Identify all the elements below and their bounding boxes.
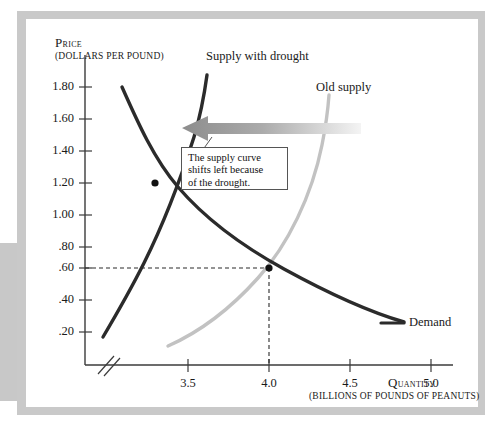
x-tick-label-4.5: 4.5 xyxy=(330,376,370,391)
chart-canvas xyxy=(26,19,478,407)
new-equilibrium-dot xyxy=(151,179,158,186)
supply-demand-chart: Price (DOLLARS PER POUND) Quantity (BILL… xyxy=(26,19,478,407)
shift-callout-text: The supply curve shifts left because of … xyxy=(188,152,282,189)
y-tick-label-1.40: 1.40 xyxy=(30,143,74,158)
y-tick-label-1.80: 1.80 xyxy=(30,79,74,94)
shift-callout-box: The supply curve shifts left because of … xyxy=(181,147,288,190)
curve-label-old-supply: Old supply xyxy=(316,80,371,95)
y-tick-label-0.20: .20 xyxy=(30,324,74,339)
y-tick-label-0.40: .40 xyxy=(30,292,74,307)
x-tick-label-3.5: 3.5 xyxy=(168,376,208,391)
curve-supply-with-drought xyxy=(103,75,207,337)
y-axis-subtitle: (DOLLARS PER POUND) xyxy=(55,51,164,61)
x-tick-label-5.0: 5.0 xyxy=(411,376,451,391)
curve-label-demand: Demand xyxy=(409,315,451,330)
y-tick-label-1.00: 1.00 xyxy=(30,207,74,222)
guide-lines xyxy=(85,268,269,365)
y-axis-title: Price xyxy=(55,35,82,51)
y-tick-label-0.60: .60 xyxy=(30,260,74,275)
shift-arrow-icon xyxy=(182,116,361,141)
x-tick-label-4.0: 4.0 xyxy=(249,376,289,391)
old-equilibrium-dot xyxy=(265,264,272,271)
curve-label-supply-with-drought: Supply with drought xyxy=(206,49,309,64)
x-axis-subtitle: (BILLIONS OF POUNDS OF PEANUTS) xyxy=(309,391,479,401)
curve-demand xyxy=(122,87,404,322)
axis-break-icon xyxy=(98,356,120,376)
y-tick-label-0.80: .80 xyxy=(30,239,74,254)
y-tick-label-1.60: 1.60 xyxy=(30,111,74,126)
y-tick-label-1.20: 1.20 xyxy=(30,175,74,190)
